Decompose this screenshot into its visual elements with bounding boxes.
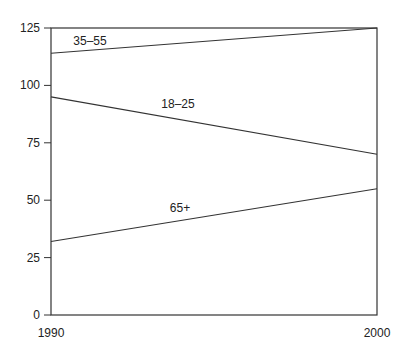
x-tick-label: 1990 [38, 326, 65, 340]
y-tick-label: 0 [33, 308, 40, 322]
y-tick-label: 25 [27, 251, 41, 265]
y-tick-label: 125 [20, 21, 40, 35]
line-chart: 025507510012519902000 35–5518–2565+ [0, 0, 405, 358]
series-labels: 35–5518–2565+ [73, 34, 195, 215]
series-lines [51, 28, 377, 242]
plot-frame [51, 28, 377, 315]
y-tick-label: 75 [27, 136, 41, 150]
y-tick-label: 50 [27, 193, 41, 207]
series-line [51, 97, 377, 154]
series-label: 65+ [170, 201, 190, 215]
series-label: 35–55 [73, 34, 107, 48]
plot-axes: 025507510012519902000 [20, 21, 391, 340]
y-tick-label: 100 [20, 78, 40, 92]
x-tick-label: 2000 [364, 326, 391, 340]
series-label: 18–25 [161, 97, 195, 111]
series-line [51, 189, 377, 242]
